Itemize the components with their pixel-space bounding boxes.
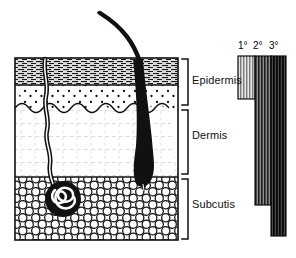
- bracket-dermis: [182, 110, 188, 174]
- skin-block: [15, 58, 178, 240]
- bracket-subcutis: [182, 179, 188, 239]
- degree-label-first: 1°: [238, 40, 248, 52]
- layer-label-epidermis: Epidermis: [192, 74, 242, 86]
- layer-label-subcutis: Subcutis: [192, 198, 235, 210]
- degree-label-third: 3°: [269, 40, 279, 52]
- burn-bar-third-degree[interactable]: [271, 56, 286, 236]
- layer-stratum-corneum: [15, 58, 178, 85]
- layer-label-dermis: Dermis: [192, 129, 227, 141]
- layer-subcutis: [15, 177, 178, 240]
- hair-shaft: [100, 13, 140, 62]
- skin-diagram: Epidermis Dermis Subcutis 1° 2° 3°: [0, 0, 296, 258]
- layer-brackets: [182, 59, 188, 239]
- skin-cross-section-figure: [0, 0, 296, 258]
- burn-degree-labels: 1° 2° 3°: [236, 40, 290, 54]
- burn-bar-second-degree[interactable]: [255, 56, 271, 205]
- bracket-epidermis: [182, 59, 188, 105]
- degree-label-second: 2°: [253, 40, 263, 52]
- burn-depth-scale: [238, 56, 286, 236]
